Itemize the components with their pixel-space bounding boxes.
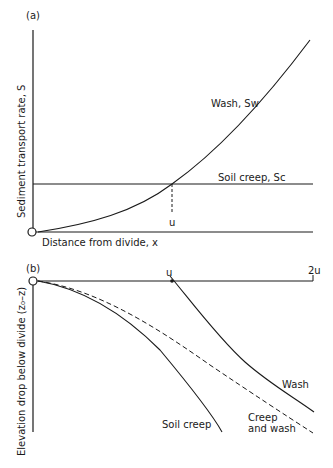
panel-a-u-label: u (169, 217, 175, 228)
panel-b: (b) Elevation drop below divide (z₀–z) u… (16, 263, 321, 456)
panel-b-soil-creep-label: Soil creep (162, 419, 211, 430)
panel-b-u-label: u (166, 267, 172, 278)
origin-circle-icon (28, 228, 36, 236)
soil-creep-label: Soil creep, Sc (218, 172, 285, 183)
panel-a-y-axis-label: Sediment transport rate, S (16, 85, 27, 218)
diagram-canvas: (a) Sediment transport rate, S Distance … (0, 0, 333, 468)
wash-curve-b (170, 276, 314, 412)
panel-a: (a) Sediment transport rate, S Distance … (16, 10, 313, 248)
wash-label: Wash, Sw (211, 98, 259, 109)
creep-and-wash-label-1: Creep (248, 412, 278, 423)
figure: (a) Sediment transport rate, S Distance … (0, 0, 333, 468)
panel-a-label: (a) (26, 10, 40, 21)
panel-b-wash-label: Wash (282, 379, 309, 390)
panel-b-label: (b) (26, 263, 40, 274)
panel-b-2u-label: 2u (308, 265, 321, 276)
panel-b-y-axis-label: Elevation drop below divide (z₀–z) (16, 287, 27, 456)
creep-and-wash-label-2: and wash (248, 423, 296, 434)
panel-a-x-axis-label: Distance from divide, x (42, 237, 158, 248)
creep-and-wash-curve (38, 281, 313, 433)
soil-creep-curve (38, 281, 222, 432)
origin-circle-icon (29, 277, 37, 285)
wash-curve (38, 40, 310, 232)
